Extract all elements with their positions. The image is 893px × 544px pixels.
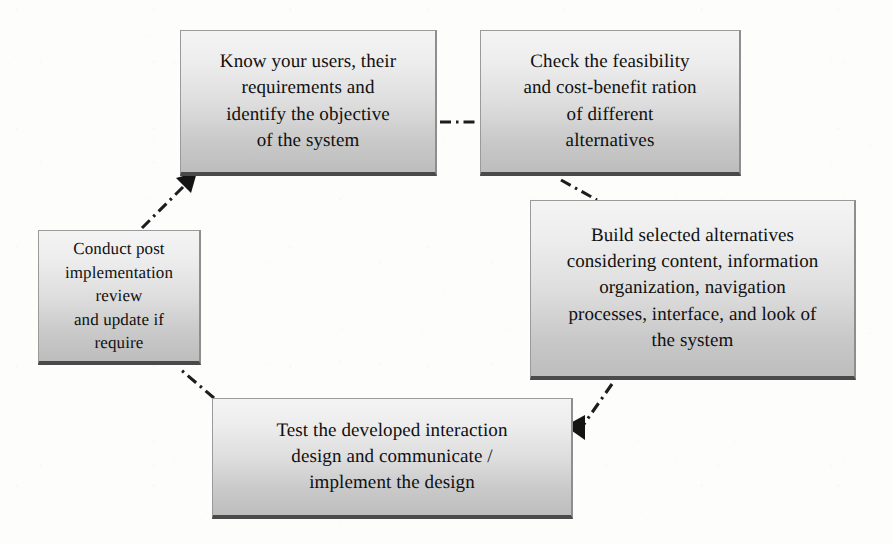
connector-check-to-build [561,180,597,200]
node-test-interaction-design[interactable]: Test the developed interaction design an… [212,398,573,519]
node-test-label: Test the developed interaction design an… [266,418,517,497]
node-check-feasibility[interactable]: Check the feasibility and cost-benefit r… [480,30,741,176]
connector-build-to-test [584,384,612,424]
node-build-alternatives[interactable]: Build selected alternatives considering … [530,200,856,380]
node-know-your-users[interactable]: Know your users, their requirements and … [180,30,437,176]
diagram-canvas: Know your users, their requirements and … [0,0,893,544]
node-conduct-post-implementation-review[interactable]: Conduct post implementation review and u… [38,230,201,365]
node-know-label: Know your users, their requirements and … [210,49,406,154]
connector-test-to-conduct [180,369,214,398]
connector-conduct-to-know [142,186,184,228]
node-build-label: Build selected alternatives considering … [557,223,829,354]
node-check-label: Check the feasibility and cost-benefit r… [513,49,706,154]
node-conduct-label: Conduct post implementation review and u… [39,237,199,354]
